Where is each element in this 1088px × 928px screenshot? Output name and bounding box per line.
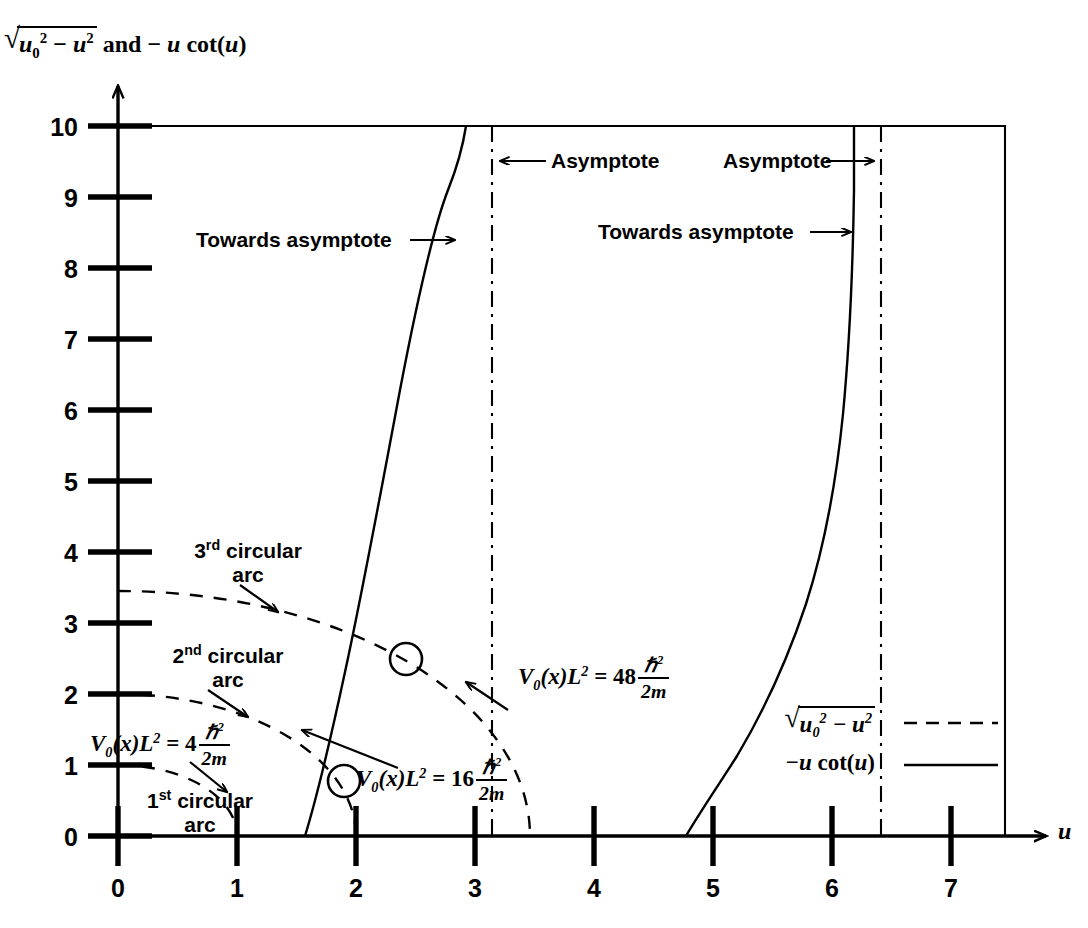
- towards-asymptote-label-right: Towards asymptote: [598, 220, 794, 244]
- formula-v0l2-4-fraction: ℏ22m: [199, 721, 230, 769]
- formula-v0l2-48-fraction: ℏ22m: [638, 654, 669, 702]
- arc2-label-line2: arc: [212, 668, 244, 691]
- arc1-label-line1: 1st circular: [147, 789, 253, 812]
- asymptote-label-left: Asymptote: [551, 149, 660, 173]
- arc3-leader: [240, 585, 278, 612]
- arc3-label-line1: 3rd circular: [194, 539, 302, 562]
- f48-leader: [466, 682, 508, 710]
- arc1-label-line2: arc: [184, 813, 216, 836]
- figure-canvas: √u02 − u2 and − u cot(u) 10 9 8 7 6 5 4 …: [0, 0, 1088, 928]
- intersection-marker-1: [390, 643, 422, 675]
- legend-samples: [904, 723, 998, 765]
- legend-entry-ucot: −u cot(u): [700, 750, 875, 776]
- formula-v0l2-16: V0(x)L2 = 16ℏ22m: [356, 757, 507, 805]
- arc2-label: 2nd circular arc: [148, 642, 308, 691]
- arc3-label: 3rd circular arc: [168, 537, 328, 586]
- radical-sign-icon: √: [785, 704, 800, 732]
- arc3-label-line2: arc: [232, 563, 264, 586]
- legend-sqrt-expression: √u02 − u2: [785, 706, 875, 741]
- formula-v0l2-16-fraction: ℏ22m: [476, 756, 507, 804]
- asymptote-label-right: Asymptote: [723, 149, 832, 173]
- arc2-label-line1: 2nd circular: [173, 644, 284, 667]
- formula-v0l2-48: V0(x)L2 = 48ℏ22m: [518, 655, 669, 703]
- arc2-leader: [208, 690, 248, 717]
- arc1-label: 1st circular arc: [120, 787, 280, 836]
- towards-asymptote-label-left: Towards asymptote: [196, 228, 392, 252]
- legend-entry-sqrt: √u02 − u2: [700, 706, 875, 741]
- formula-v0l2-4: V0(x)L2 = 4ℏ22m: [90, 722, 230, 770]
